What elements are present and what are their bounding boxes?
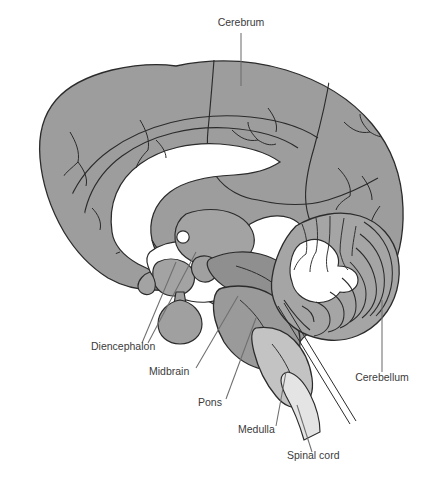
pituitary-gland — [158, 300, 202, 344]
interventricular-foramen — [177, 231, 189, 243]
label-text-midbrain: Midbrain — [149, 365, 189, 377]
spinal-cord — [281, 372, 320, 440]
brain-diagram-svg: Cerebrum Diencephalon Midbrain Pons Medu… — [0, 0, 436, 478]
spinal-cord-structure — [281, 372, 320, 440]
label-text-cerebrum: Cerebrum — [218, 16, 265, 28]
label-text-medulla: Medulla — [238, 423, 275, 435]
hypothalamus — [153, 259, 195, 296]
label-text-diencephalon: Diencephalon — [91, 340, 155, 352]
label-text-pons: Pons — [198, 396, 222, 408]
brain-diagram-figure: Cerebrum Diencephalon Midbrain Pons Medu… — [0, 0, 436, 478]
cerebellum-structure — [272, 213, 400, 340]
label-text-cerebellum: Cerebellum — [355, 371, 409, 383]
label-text-spinal-cord: Spinal cord — [287, 449, 340, 461]
